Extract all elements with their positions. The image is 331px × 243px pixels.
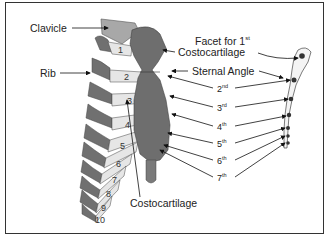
label-rib: Rib	[40, 68, 56, 79]
label-facet-line1: Facet for 1st	[195, 35, 250, 46]
sternum-lateral-view	[284, 48, 311, 148]
label-costocartilage: Costocartilage	[130, 198, 197, 209]
svg-text:7: 7	[112, 175, 117, 185]
ordinal-2nd: 2nd	[217, 84, 228, 94]
svg-text:9: 9	[101, 203, 106, 213]
svg-text:2: 2	[124, 72, 129, 82]
ordinal-7th: 7th	[217, 173, 227, 183]
ordinal-4th: 4th	[217, 122, 227, 132]
xiphoid-process	[146, 160, 156, 183]
ordinal-3rd: 3rd	[217, 103, 227, 113]
svg-text:1: 1	[118, 45, 123, 55]
svg-text:10: 10	[95, 215, 105, 225]
ordinal-6th: 6th	[217, 156, 227, 166]
svg-text:8: 8	[106, 189, 111, 199]
svg-text:5: 5	[120, 141, 125, 151]
svg-text:6: 6	[116, 159, 121, 169]
label-clavicle: Clavicle	[30, 23, 67, 34]
label-sternal-angle: Sternal Angle	[192, 66, 254, 77]
ordinal-5th: 5th	[217, 139, 227, 149]
label-facet-line2: Costocartilage	[178, 47, 245, 58]
svg-text:4: 4	[125, 120, 130, 130]
